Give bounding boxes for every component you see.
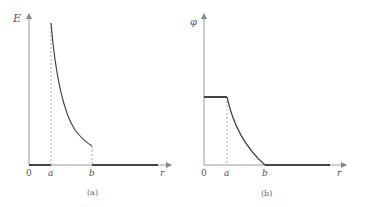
- x-axis-label: r: [160, 168, 165, 178]
- panel-a: E 0 a b r (a): [12, 12, 171, 197]
- tick-a: a: [224, 168, 229, 178]
- y-axis-label: E: [12, 12, 21, 25]
- potential-curve: [227, 97, 265, 165]
- y-axis-label: φ: [190, 16, 197, 27]
- tick-a: a: [48, 168, 53, 178]
- figure-canvas: E 0 a b r (a) φ 0 a b r (b): [0, 0, 365, 207]
- caption-b: (b): [261, 189, 272, 198]
- caption-a: (a): [87, 188, 98, 197]
- x-axis-label: r: [337, 168, 342, 178]
- origin-label: 0: [26, 168, 32, 178]
- tick-b: b: [89, 168, 95, 178]
- origin-label: 0: [201, 168, 207, 178]
- panel-b: φ 0 a b r (b): [190, 14, 346, 198]
- field-curve: [51, 23, 92, 146]
- tick-b: b: [262, 168, 268, 178]
